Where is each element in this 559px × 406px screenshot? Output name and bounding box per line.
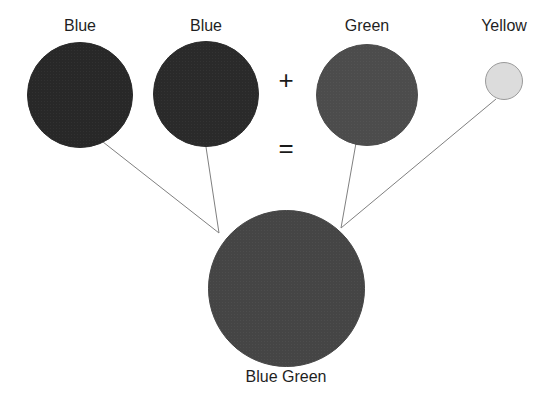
figure-canvas: Blue Blue Green Yellow Blue Green + = — [0, 0, 559, 406]
equals-operator: = — [278, 135, 293, 161]
label-green: Green — [345, 17, 389, 35]
label-blue-green: Blue Green — [246, 368, 327, 386]
circle-blue-1 — [27, 42, 133, 148]
circle-blue-2 — [153, 41, 259, 147]
label-blue-1: Blue — [64, 17, 96, 35]
plus-operator: + — [278, 67, 293, 93]
label-blue-2: Blue — [190, 17, 222, 35]
circle-blue-green — [208, 210, 365, 367]
connector-blue-1 — [103, 142, 219, 233]
circle-yellow — [485, 62, 523, 100]
connector-blue-2 — [206, 147, 219, 233]
circle-green — [316, 44, 418, 146]
connector-green — [341, 143, 356, 228]
label-yellow: Yellow — [481, 17, 527, 35]
